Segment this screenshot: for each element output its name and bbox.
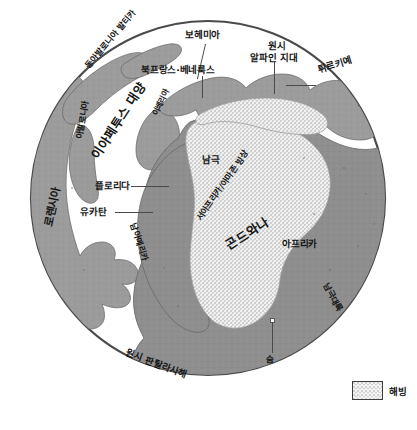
sea-ice-swatch (352, 381, 383, 400)
leader-turkiye (286, 85, 316, 86)
figure-canvas: 보헤미아 북프랑스·베네룩스 원시 알파인 지대 튀르키예 동아발로니아 발티카… (0, 0, 417, 430)
leader-proto-alpine (274, 62, 275, 94)
label-yucatan: 유카탄 (80, 206, 106, 217)
leader-sum (272, 321, 273, 353)
label-sum: 숨 (266, 354, 274, 365)
leader-yucatan (115, 212, 153, 213)
leader-north-france-benelux (202, 76, 203, 98)
legend: 해빙 (352, 381, 407, 400)
sea-ice-swatch-fill (353, 382, 382, 399)
label-proto-alpine-line2: 알파인 지대 (238, 52, 310, 63)
leader-florida (131, 186, 169, 187)
legend-label-sea-ice: 해빙 (389, 384, 407, 398)
label-south-pole: 남극 (202, 154, 220, 165)
label-north-france-benelux: 북프랑스·베네룩스 (141, 64, 215, 75)
label-africa: 아프리카 (282, 238, 317, 249)
label-proto-alpine-line1: 원시 (264, 40, 290, 51)
leader-endpoint-sum (270, 318, 275, 323)
label-bohemia: 보헤미아 (185, 29, 220, 40)
label-florida: 플로리다 (95, 180, 130, 191)
